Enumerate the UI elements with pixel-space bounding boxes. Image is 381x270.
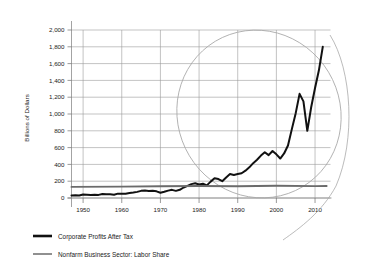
y-tick-label: 1,600 bbox=[49, 60, 65, 67]
y-tick-label: 600 bbox=[54, 144, 65, 151]
chart-annotations bbox=[146, 0, 373, 240]
y-tick-label: 1,400 bbox=[49, 77, 65, 84]
chart-figure: 02004006008001,0001,2001,4001,6001,8002,… bbox=[0, 0, 381, 270]
x-tick-label: 1990 bbox=[231, 206, 245, 213]
legend-label-corporate-profits: Corporate Profits After Tax bbox=[58, 233, 134, 241]
y-tick-label: 0 bbox=[61, 194, 65, 201]
y-tick-label: 1,000 bbox=[49, 110, 65, 117]
y-axis-title: Billions of Dollars bbox=[23, 94, 30, 141]
chart-gridlines bbox=[72, 30, 331, 198]
series-line-corporate-profits-after-tax bbox=[72, 47, 323, 196]
x-tick-label: 2000 bbox=[269, 206, 283, 213]
x-tick-label: 2010 bbox=[308, 206, 322, 213]
y-tick-label: 1,200 bbox=[49, 93, 65, 100]
legend-label-labor-share: Nonfarm Business Sector: Labor Share bbox=[58, 251, 170, 258]
x-tick-label: 1970 bbox=[154, 206, 168, 213]
y-tick-label: 1,800 bbox=[49, 43, 65, 50]
y-tick-label: 2,000 bbox=[49, 26, 65, 33]
chart-legend: Corporate Profits After Tax Nonfarm Busi… bbox=[33, 233, 170, 258]
chart-tick-marks bbox=[68, 30, 316, 203]
series-line-nonfarm-business-sector-labor-share bbox=[72, 186, 327, 187]
y-tick-label: 800 bbox=[54, 127, 65, 134]
x-axis-tick-labels: 1950196019701980199020002010 bbox=[76, 206, 322, 213]
x-tick-label: 1960 bbox=[115, 206, 129, 213]
y-tick-label: 400 bbox=[54, 161, 65, 168]
x-tick-label: 1980 bbox=[192, 206, 206, 213]
y-tick-label: 200 bbox=[54, 177, 65, 184]
x-tick-label: 1950 bbox=[76, 206, 90, 213]
y-axis-tick-labels: 02004006008001,0001,2001,4001,6001,8002,… bbox=[49, 26, 65, 201]
